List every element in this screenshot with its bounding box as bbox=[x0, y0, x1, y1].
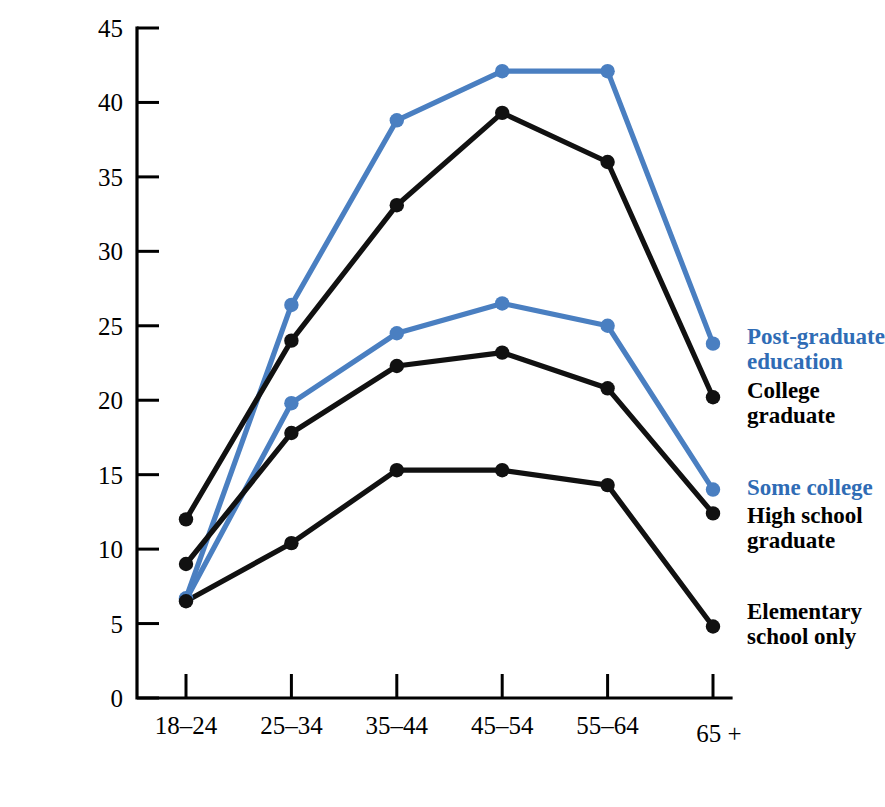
series-line-elementary-school-only bbox=[186, 470, 713, 626]
y-tick-label: 15 bbox=[98, 462, 123, 489]
data-point-marker bbox=[390, 198, 404, 212]
x-tick-label: 18–24 bbox=[155, 712, 218, 739]
data-series-layer bbox=[186, 71, 713, 626]
data-point-marker bbox=[390, 463, 404, 477]
legend-label-some-college: Some college bbox=[747, 476, 873, 501]
data-point-marker bbox=[179, 512, 193, 526]
data-point-marker bbox=[390, 113, 404, 127]
data-point-marker bbox=[179, 594, 193, 608]
legend-label-elementary-school-only: Elementary school only bbox=[747, 600, 862, 650]
data-point-marker bbox=[495, 296, 509, 310]
data-point-marker bbox=[284, 298, 298, 312]
y-tick-label: 45 bbox=[98, 15, 123, 42]
data-point-marker bbox=[390, 326, 404, 340]
data-point-marker bbox=[284, 536, 298, 550]
data-point-marker bbox=[600, 64, 614, 78]
data-point-marker bbox=[600, 478, 614, 492]
x-tick-label: 55–64 bbox=[576, 712, 639, 739]
y-tick-label: 20 bbox=[98, 387, 123, 414]
data-point-marker bbox=[284, 396, 298, 410]
data-point-marker bbox=[284, 426, 298, 440]
y-tick-label: 5 bbox=[111, 611, 124, 638]
data-point-marker bbox=[600, 319, 614, 333]
legend-label-post-graduate-education: Post-graduate education bbox=[747, 325, 885, 375]
data-point-marker bbox=[706, 390, 720, 404]
x-axis-tick-labels: 18–2425–3435–4445–5455–6465 + bbox=[155, 712, 742, 747]
y-tick-label: 40 bbox=[98, 89, 123, 116]
data-point-marker bbox=[706, 336, 720, 350]
data-point-marker bbox=[495, 463, 509, 477]
x-tick-label: 65 + bbox=[696, 720, 741, 747]
data-point-marker bbox=[284, 333, 298, 347]
data-point-marker bbox=[706, 506, 720, 520]
y-axis-tick-labels: 051015202530354045 bbox=[98, 15, 123, 712]
legend-label-college-graduate: College graduate bbox=[747, 379, 835, 429]
data-point-marker bbox=[600, 381, 614, 395]
y-tick-label: 0 bbox=[111, 685, 124, 712]
y-tick-label: 25 bbox=[98, 313, 123, 340]
data-point-marker bbox=[600, 155, 614, 169]
y-tick-label: 30 bbox=[98, 238, 123, 265]
x-tick-label: 45–54 bbox=[471, 712, 534, 739]
data-point-marker bbox=[495, 345, 509, 359]
x-tick-label: 35–44 bbox=[366, 712, 429, 739]
x-tick-label: 25–34 bbox=[260, 712, 323, 739]
legend-label-high-school-graduate: High school graduate bbox=[747, 504, 863, 554]
chart-figure: 051015202530354045 18–2425–3435–4445–545… bbox=[0, 0, 885, 807]
data-point-marker bbox=[495, 64, 509, 78]
y-tick-label: 35 bbox=[98, 164, 123, 191]
data-point-marker bbox=[706, 619, 720, 633]
data-point-marker bbox=[179, 557, 193, 571]
data-point-marker bbox=[706, 482, 720, 496]
y-tick-label: 10 bbox=[98, 536, 123, 563]
data-point-marker bbox=[390, 359, 404, 373]
data-point-marker bbox=[495, 106, 509, 120]
